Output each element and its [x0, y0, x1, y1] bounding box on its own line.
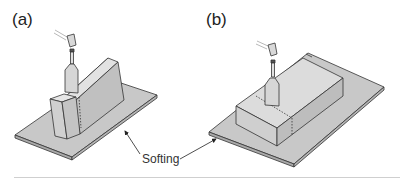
panel-a-illustration: [15, 30, 157, 160]
bottom-divider: [14, 177, 400, 178]
diagram-canvas: [0, 0, 403, 182]
arrow-to-plate-a: [125, 131, 140, 154]
front-block-a: [50, 94, 81, 139]
softing-annotation: Softing: [142, 152, 179, 166]
panel-b-illustration: [209, 41, 384, 167]
deposition-tool-a: [54, 30, 78, 93]
arrow-to-plate-b: [180, 139, 216, 159]
